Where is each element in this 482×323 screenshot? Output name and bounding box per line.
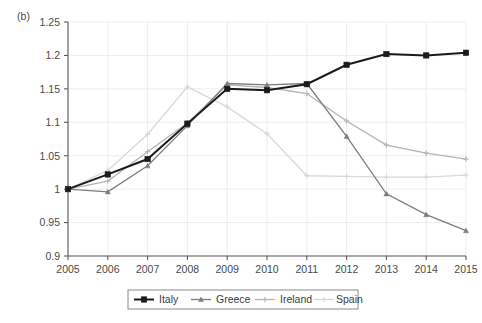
x-axis-tick-label: 2005 (56, 263, 80, 275)
y-axis-tick-label: 1.15 (40, 83, 61, 95)
y-axis-tick-label: 1.25 (40, 16, 61, 28)
data-point-marker (304, 81, 309, 86)
y-axis-tick-label: 1.1 (45, 116, 60, 128)
legend-entry-greece[interactable]: Greece (191, 293, 251, 305)
y-axis-tick-label: 0.9 (45, 250, 60, 262)
data-point-marker (424, 53, 429, 58)
legend-entry-spain[interactable]: Spain (314, 293, 363, 305)
y-axis-tick-label: 1.2 (45, 49, 60, 61)
chart-legend: ItalyGreeceIrelandSpain (128, 290, 363, 309)
data-point-marker (145, 156, 150, 161)
data-point-marker (344, 62, 349, 67)
figure-container: (b) 0.90.9511.051.11.151.21.25 200520062… (0, 0, 482, 323)
x-axis-tick-label: 2011 (296, 263, 319, 275)
axes (64, 22, 466, 260)
y-axis-tick-label: 1.05 (40, 150, 61, 162)
x-axis-tick-labels: 2005200620072008200920102011201220132014… (56, 263, 478, 275)
data-point-marker (185, 121, 190, 126)
legend-label: Italy (159, 293, 179, 305)
line-chart: 0.90.9511.051.11.151.21.25 2005200620072… (0, 0, 482, 323)
x-axis-tick-label: 2007 (136, 263, 160, 275)
x-axis-tick-label: 2013 (375, 263, 399, 275)
x-axis-tick-label: 2010 (255, 263, 279, 275)
x-axis-tick-label: 2012 (335, 263, 359, 275)
data-point-marker (141, 297, 146, 302)
x-axis-tick-label: 2006 (96, 263, 120, 275)
x-axis-tick-label: 2014 (415, 263, 439, 275)
legend-label: Ireland (280, 293, 312, 305)
data-point-marker (225, 86, 230, 91)
legend-label: Greece (216, 293, 251, 305)
legend-label: Spain (336, 293, 363, 305)
grid-lines (68, 22, 466, 256)
legend-entry-italy[interactable]: Italy (134, 293, 179, 305)
data-point-marker (463, 50, 468, 55)
data-point-marker (384, 51, 389, 56)
data-point-marker (65, 186, 70, 191)
y-axis-tick-label: 0.95 (40, 216, 61, 228)
x-axis-tick-label: 2008 (176, 263, 200, 275)
data-point-marker (105, 172, 110, 177)
y-axis-tick-labels: 0.90.9511.051.11.151.21.25 (40, 16, 61, 262)
data-point-marker (264, 87, 269, 92)
legend-entry-ireland[interactable]: Ireland (255, 293, 312, 305)
y-axis-tick-label: 1 (54, 183, 60, 195)
x-axis-tick-label: 2015 (454, 263, 478, 275)
x-axis-tick-label: 2009 (216, 263, 240, 275)
